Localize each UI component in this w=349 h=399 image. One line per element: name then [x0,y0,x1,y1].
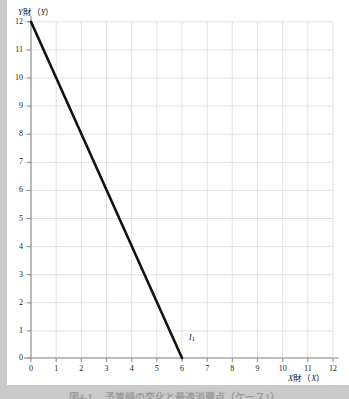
y-tick-label: 4 [9,242,23,251]
x-tick-label: 7 [199,364,215,373]
y-axis-title-end: ） [45,7,54,17]
curve-label-i1: I1 [189,332,195,342]
x-tick-label: 4 [124,364,140,373]
y-tick-label: 12 [9,17,23,26]
budget-line-chart: Y財（Y） X財（X） 0 1 2 3 4 5 6 7 8 9 10 11 12… [7,0,349,385]
grid-horizontal [24,22,333,358]
chart-card: Y財（Y） X財（X） 0 1 2 3 4 5 6 7 8 9 10 11 12… [7,0,349,385]
y-tick-label: 8 [9,129,23,138]
x-tick-label: 12 [325,364,341,373]
y-tick-label: 7 [9,157,23,166]
x-tick-label: 11 [300,364,316,373]
y-tick-label: 1 [9,326,23,335]
x-tick-label: 10 [275,364,291,373]
y-tick-label: 5 [9,214,23,223]
y-tick-label: 11 [9,45,23,54]
y-axis-title: Y財（Y） [18,5,54,17]
figure-caption: 図4-1 予算線の変化と最適消費点（ケース1） [0,389,349,399]
y-tick-label: 6 [9,185,23,194]
x-tick-label: 3 [99,364,115,373]
y-tick-label: 0 [9,353,23,362]
x-tick-label: 1 [48,364,64,373]
x-tick-label: 8 [224,364,240,373]
figure-caption-strip: 図4-1 予算線の変化と最適消費点（ケース1） [0,385,349,399]
x-tick-label: 2 [73,364,89,373]
curve-label-subscript: 1 [192,335,195,342]
plot-area [7,0,349,385]
grid-vertical [31,22,333,358]
x-axis-title-end: ） [316,373,325,383]
y-tick-label: 2 [9,298,23,307]
x-tick-label: 6 [174,364,190,373]
y-axis-title-mid: 財（ [23,7,41,17]
x-tick-label: 0 [23,364,39,373]
x-tick-label: 9 [250,364,266,373]
y-tick-label: 10 [9,73,23,82]
x-tick-label: 5 [149,364,165,373]
x-axis-title-mid: 財（ [293,373,311,383]
y-tick-label: 3 [9,270,23,279]
y-axis-ticks [27,22,31,358]
y-tick-label: 9 [9,101,23,110]
page-root: Y財（Y） X財（X） 0 1 2 3 4 5 6 7 8 9 10 11 12… [0,0,349,399]
